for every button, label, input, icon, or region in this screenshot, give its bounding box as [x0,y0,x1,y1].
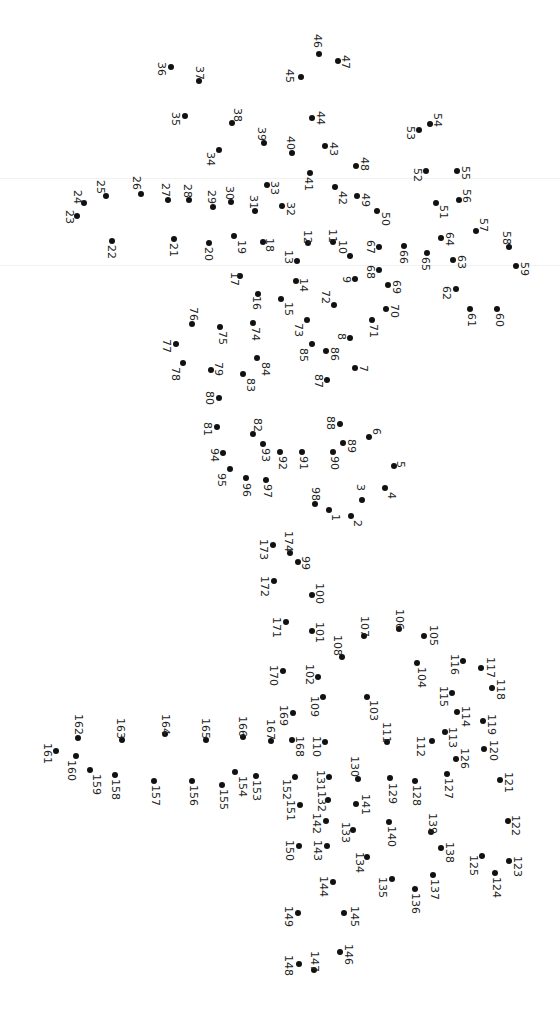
dot-number-label: 101 [314,622,325,643]
dot-number-label: 11 [327,229,338,243]
dot-number-label: 65 [420,257,431,271]
dot-point [348,513,354,519]
dot-point [326,507,332,513]
dot-number-label: 46 [312,34,323,48]
dot-number-label: 164 [160,714,171,735]
dot-point [217,324,223,330]
dot-point [412,886,418,892]
dot-point [231,233,237,239]
dot-number-label: 138 [444,842,455,863]
dot-number-label: 2 [352,520,363,527]
dot-number-label: 35 [170,112,181,126]
dot-number-label: 26 [131,176,142,190]
dot-point [290,710,296,716]
dot-number-label: 127 [443,778,454,799]
dot-point [341,910,347,916]
dot-number-label: 8 [336,333,347,340]
dot-number-label: 30 [224,186,235,200]
dot-point [138,191,144,197]
dot-number-label: 53 [405,126,416,140]
dot-point [270,542,276,548]
dot-point [412,778,418,784]
dot-point [240,371,246,377]
dot-number-label: 78 [170,367,181,381]
dot-point [430,872,436,878]
dot-number-label: 109 [309,696,320,717]
dot-number-label: 140 [386,826,397,847]
dot-number-label: 57 [478,218,489,232]
dot-point [316,51,322,57]
dot-number-label: 17 [229,272,240,286]
dot-number-label: 55 [460,166,471,180]
dot-number-label: 62 [441,286,452,300]
dot-number-label: 163 [115,718,126,739]
dot-number-label: 134 [354,852,365,873]
dot-number-label: 118 [495,679,506,700]
dot-number-label: 5 [395,461,406,468]
dot-number-label: 69 [391,280,402,294]
dot-number-label: 29 [206,190,217,204]
dot-number-label: 81 [202,422,213,436]
dot-number-label: 123 [512,856,523,877]
dot-number-label: 102 [304,664,315,685]
dot-number-label: 90 [329,456,340,470]
dot-point [424,250,430,256]
dot-number-label: 94 [209,448,220,462]
dot-number-label: 143 [312,840,323,861]
dot-number-label: 42 [337,191,348,205]
dot-number-label: 49 [360,193,371,207]
dot-point [299,449,305,455]
dot-number-label: 136 [410,893,421,914]
dot-number-label: 149 [283,906,294,927]
dot-point [296,843,302,849]
dot-number-label: 154 [237,776,248,797]
dot-number-label: 36 [156,62,167,76]
dot-point [387,775,393,781]
dot-number-label: 111 [381,722,392,743]
dot-number-label: 71 [368,324,379,338]
dot-number-label: 80 [204,391,215,405]
dot-point [429,738,435,744]
dot-number-label: 22 [106,245,117,259]
dot-point [414,660,420,666]
dot-number-label: 162 [73,714,84,735]
dot-number-label: 51 [438,205,449,219]
dot-number-label: 68 [365,265,376,279]
dot-number-label: 153 [251,780,262,801]
dot-number-label: 97 [262,484,273,498]
dot-number-label: 70 [389,304,400,318]
dot-number-label: 150 [284,840,295,861]
dot-point [298,74,304,80]
dot-number-label: 12 [302,230,313,244]
dot-number-label: 33 [269,181,280,195]
dot-number-label: 131 [315,770,326,791]
dot-point [444,771,450,777]
dot-point [87,767,93,773]
dot-number-label: 170 [268,665,279,686]
dot-number-label: 75 [217,331,228,345]
dot-number-label: 58 [501,231,512,245]
dot-number-label: 18 [264,238,275,252]
dot-number-label: 98 [310,487,321,501]
dot-point [112,772,118,778]
dot-number-label: 7 [358,365,369,372]
dot-number-label: 133 [340,822,351,843]
dot-number-label: 125 [468,855,479,876]
dot-number-label: 145 [349,906,360,927]
dot-number-label: 117 [485,657,496,678]
dot-number-label: 141 [360,794,371,815]
dot-number-label: 115 [438,686,449,707]
dot-number-label: 167 [265,719,276,740]
dot-number-label: 14 [298,278,309,292]
dot-number-label: 47 [340,55,351,69]
dot-number-label: 76 [188,307,199,321]
dot-point [369,317,375,323]
dot-point [309,341,315,347]
dot-number-label: 146 [343,944,354,965]
dot-point [189,321,195,327]
dot-number-label: 52 [412,168,423,182]
dot-number-label: 112 [415,736,426,757]
dot-number-label: 16 [251,296,262,310]
dot-number-label: 64 [444,232,455,246]
dot-number-label: 15 [283,302,294,316]
